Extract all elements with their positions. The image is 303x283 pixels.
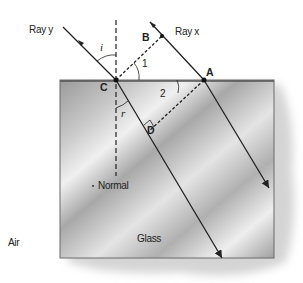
- label-point-c: C: [100, 81, 107, 93]
- refraction-diagram: Ray y Ray x B A C D i 1 2 r Normal Air G…: [0, 0, 303, 283]
- point-c-dot: [114, 78, 119, 83]
- label-glass: Glass: [137, 233, 161, 244]
- angle-1-arc: [134, 63, 139, 80]
- label-ray-y: Ray y: [29, 24, 53, 35]
- label-angle-r: r: [121, 107, 125, 119]
- label-angle-1: 1: [142, 58, 147, 69]
- angle-i-arc: [97, 55, 116, 61]
- label-air: Air: [8, 237, 19, 248]
- label-angle-2: 2: [160, 88, 165, 99]
- label-normal: Normal: [98, 180, 128, 191]
- label-angle-i: i: [100, 41, 103, 53]
- label-ray-x: Ray x: [175, 26, 199, 37]
- point-a-dot: [202, 78, 207, 83]
- ray-y-incident: [63, 27, 116, 80]
- label-point-a: A: [206, 66, 213, 78]
- point-b-dot: [160, 34, 164, 38]
- label-point-b: B: [142, 31, 149, 43]
- glass-block: [60, 80, 274, 258]
- normal-bullet: [92, 185, 94, 187]
- label-point-d: D: [147, 124, 154, 136]
